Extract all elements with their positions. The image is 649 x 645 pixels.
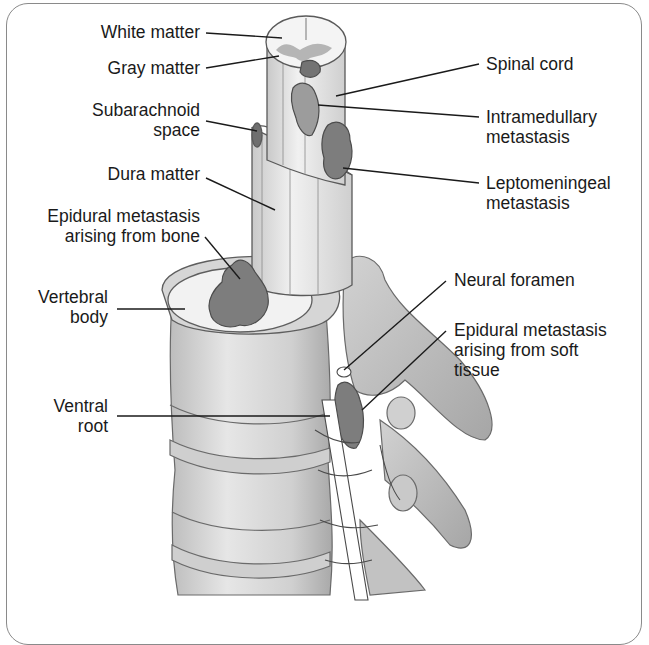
label-line: arising from bone xyxy=(47,226,200,246)
label-line: metastasis xyxy=(486,193,611,213)
label-line: body xyxy=(38,307,108,327)
label-spinal-cord: Spinal cord xyxy=(486,54,574,74)
label-ventral-root: Ventral root xyxy=(54,396,108,436)
label-white-matter: White matter xyxy=(101,22,200,42)
label-line: White matter xyxy=(101,22,200,42)
label-epidural-metastasis-soft-tissue: Epidural metastasis arising from soft ti… xyxy=(454,320,607,380)
intramedullary-tumor xyxy=(300,60,320,77)
vertebral-column xyxy=(170,300,332,595)
label-dura-matter: Dura matter xyxy=(108,164,200,184)
leptomeningeal-tumor xyxy=(322,122,352,179)
label-intramedullary-metastasis: Intramedullary metastasis xyxy=(486,107,597,147)
label-line: Epidural metastasis xyxy=(47,206,200,226)
label-leptomeningeal-metastasis: Leptomeningeal metastasis xyxy=(486,173,611,213)
leader-spinal-cord xyxy=(336,64,479,96)
label-neural-foramen: Neural foramen xyxy=(454,270,575,290)
label-line: Neural foramen xyxy=(454,270,575,290)
label-line: Leptomeningeal xyxy=(486,173,611,193)
label-line: Dura matter xyxy=(108,164,200,184)
label-line: metastasis xyxy=(486,127,597,147)
label-epidural-metastasis-bone: Epidural metastasis arising from bone xyxy=(47,206,200,246)
label-gray-matter: Gray matter xyxy=(108,58,200,78)
label-line: Spinal cord xyxy=(486,54,574,74)
vertebral-processes xyxy=(343,256,492,595)
label-vertebral-body: Vertebral body xyxy=(38,287,108,327)
label-line: root xyxy=(54,416,108,436)
label-line: Subarachnoid xyxy=(92,100,200,120)
leader-leptomeningeal xyxy=(343,168,479,183)
label-line: Ventral xyxy=(54,396,108,416)
label-line: Vertebral xyxy=(38,287,108,307)
label-line: space xyxy=(92,120,200,140)
leader-subarachnoid xyxy=(206,121,257,131)
label-line: arising from soft xyxy=(454,340,607,360)
label-subarachnoid-space: Subarachnoid space xyxy=(92,100,200,140)
label-line: Epidural metastasis xyxy=(454,320,607,340)
label-line: tissue xyxy=(454,360,607,380)
label-line: Intramedullary xyxy=(486,107,597,127)
label-line: Gray matter xyxy=(108,58,200,78)
